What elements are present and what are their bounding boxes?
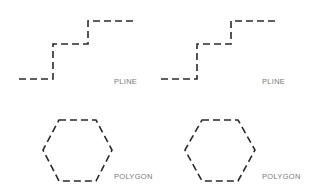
polygon-right-shape [185, 120, 255, 181]
polygon-left-label: POLYGON [114, 172, 153, 181]
pline-right-shape [161, 21, 278, 79]
pline-left-label: PLINE [114, 77, 137, 86]
polygon-left-shape [43, 120, 112, 181]
pline-right-label: PLINE [262, 77, 285, 86]
polygon-right-label: POLYGON [262, 172, 301, 181]
diagram-canvas [0, 0, 316, 188]
pline-left-shape [19, 21, 136, 79]
